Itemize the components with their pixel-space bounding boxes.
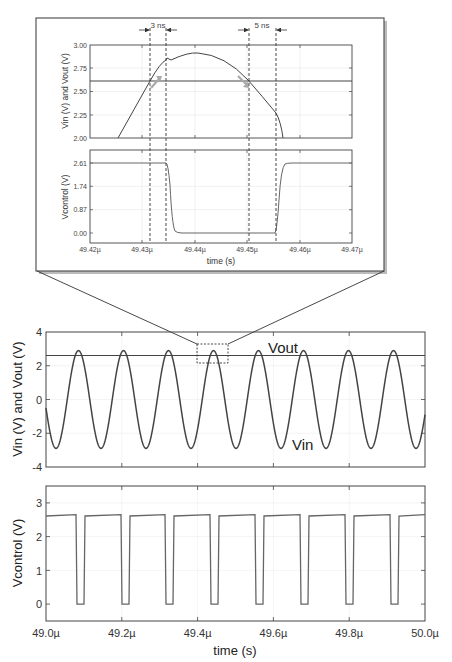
tick-label: 0.87	[73, 206, 87, 213]
inset-panel	[36, 18, 387, 274]
tick-label: 49.44µ	[184, 246, 206, 254]
vin-label: Vin	[292, 436, 313, 453]
tick-label: 49.8µ	[335, 627, 363, 639]
tick-label: 49.45µ	[236, 246, 258, 254]
main-bottom-plot: 3 2 1 0 49.0µ 49.2µ 49.4µ 49.6µ 49.8µ 50…	[10, 486, 440, 658]
tick-label: 49.4µ	[184, 627, 212, 639]
vout-label: Vout	[268, 339, 299, 356]
inset-top-y-axis-label: Vin (V) and Vout (V)	[60, 53, 70, 129]
main-top-y-axis-label: Vin (V) and Vout (V)	[10, 341, 25, 456]
main-top-plot: 4 2 0 -2 -4 Vin (V) and Vout (V) Vout Vi…	[10, 326, 425, 473]
annotation-5ns: 5 ns	[254, 21, 269, 30]
tick-label: -2	[32, 427, 42, 439]
zoom-region-box	[197, 344, 228, 363]
tick-label: 49.42µ	[79, 246, 101, 254]
figure: 3.00 2.75 2.50 2.25 2.00 Vin (V) and Vou…	[0, 0, 452, 662]
tick-label: 4	[36, 326, 42, 338]
tick-label: 49.0µ	[32, 627, 60, 639]
tick-label: 0	[36, 598, 42, 610]
tick-label: 1.74	[73, 183, 87, 190]
inset-x-axis-label: time (s)	[207, 256, 236, 266]
tick-label: 49.43µ	[131, 246, 153, 254]
tick-label: 2.50	[73, 88, 87, 95]
tick-label: 1	[36, 565, 42, 577]
tick-label: 2.25	[73, 112, 87, 119]
tick-label: 2.75	[73, 65, 87, 72]
tick-label: 50.0µ	[411, 627, 439, 639]
tick-label: 2.61	[73, 160, 87, 167]
tick-label: 49.2µ	[108, 627, 136, 639]
vcontrol-pulse-train	[46, 515, 425, 604]
main-x-axis-label: time (s)	[213, 643, 256, 658]
tick-label: 3.00	[73, 42, 87, 49]
tick-label: 2	[36, 360, 42, 372]
zoom-connector-lines	[37, 271, 384, 344]
main-bottom-y-axis-label: Vcontrol (V)	[10, 519, 25, 588]
tick-label: 3	[36, 497, 42, 509]
tick-label: 49.46µ	[289, 246, 311, 254]
tick-label: 2	[36, 531, 42, 543]
tick-label: 0.00	[73, 230, 87, 237]
tick-label: 49.6µ	[260, 627, 288, 639]
tick-label: 49.47µ	[341, 246, 363, 254]
inset-bottom-y-axis-label: Vcontrol (V)	[60, 174, 70, 219]
tick-label: 2.00	[73, 135, 87, 142]
tick-label: 0	[36, 394, 42, 406]
annotation-3ns: 3 ns	[150, 21, 165, 30]
tick-label: -4	[32, 461, 42, 473]
